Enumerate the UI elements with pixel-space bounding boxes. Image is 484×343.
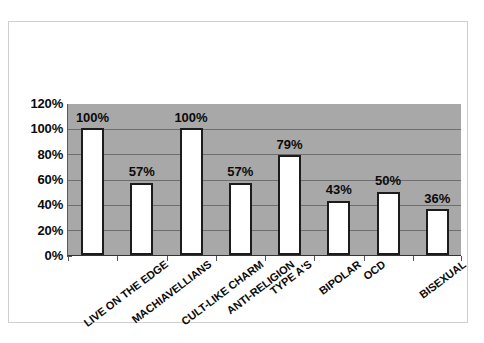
bar-value-label: 36% bbox=[411, 192, 464, 206]
screenshot-root: 120% 100% 80% 60% 40% 20% 0% 100% bbox=[0, 0, 484, 343]
y-axis-tick-label: 0% bbox=[17, 249, 63, 262]
bar-group: 50% bbox=[364, 103, 413, 255]
bar[interactable] bbox=[180, 128, 203, 255]
bar-value-label: 100% bbox=[165, 111, 218, 125]
chart-frame: 120% 100% 80% 60% 40% 20% 0% 100% bbox=[8, 21, 468, 323]
bar[interactable] bbox=[426, 209, 449, 255]
bar-group: 100% bbox=[167, 103, 216, 255]
y-axis-tick-label: 40% bbox=[17, 198, 63, 211]
bar-group: 43% bbox=[314, 103, 363, 255]
bar-value-label: 57% bbox=[214, 165, 267, 179]
bar-value-label: 50% bbox=[362, 174, 415, 188]
bar-group: 36% bbox=[413, 103, 462, 255]
plot-area: 100% 57% 100% 57% 79% 43% bbox=[67, 104, 461, 256]
bar[interactable] bbox=[229, 183, 252, 255]
x-axis-category-label: BISEXUAL bbox=[417, 258, 468, 301]
bar-group: 57% bbox=[117, 103, 166, 255]
y-axis-tick-label: 80% bbox=[17, 148, 63, 161]
bar[interactable] bbox=[81, 128, 104, 255]
bar-group: 79% bbox=[265, 103, 314, 255]
bar[interactable] bbox=[377, 192, 400, 255]
bar-value-label: 57% bbox=[115, 165, 168, 179]
y-axis-tick-label: 100% bbox=[17, 122, 63, 135]
y-axis-tick-label: 120% bbox=[17, 97, 63, 110]
x-axis: LIVE ON THE EDGE MACHIAVELLIANS CULT-LIK… bbox=[67, 258, 461, 338]
x-axis-category-label: LIVE ON THE EDGE bbox=[81, 258, 169, 329]
bar-group: 100% bbox=[68, 103, 117, 255]
bar-value-label: 43% bbox=[312, 183, 365, 197]
y-axis-tick-label: 60% bbox=[17, 173, 63, 186]
bar-group: 57% bbox=[216, 103, 265, 255]
bar[interactable] bbox=[130, 183, 153, 255]
bar[interactable] bbox=[278, 155, 301, 255]
bar-value-label: 79% bbox=[263, 138, 316, 152]
y-axis-tick-label: 20% bbox=[17, 224, 63, 237]
x-axis-category-label: BIPOLAR bbox=[317, 258, 363, 297]
y-axis: 120% 100% 80% 60% 40% 20% 0% bbox=[15, 104, 63, 256]
bar[interactable] bbox=[327, 201, 350, 256]
bar-value-label: 100% bbox=[66, 111, 119, 125]
x-axis-category-label: OCD bbox=[361, 258, 388, 282]
